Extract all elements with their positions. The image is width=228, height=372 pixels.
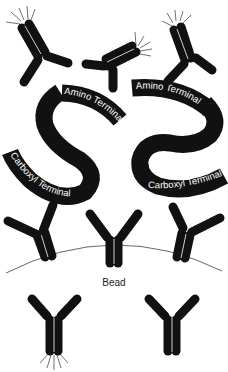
emission-rays-icon — [162, 10, 191, 26]
capture-antibody-right — [173, 207, 220, 258]
free-unlabeled-antibody — [149, 299, 195, 352]
capture-antibody-left — [8, 205, 53, 257]
amino-terminal-label-left: Amino Terminal — [64, 85, 127, 125]
labeled-antibody-top-left — [6, 6, 68, 82]
bead-label: Bead — [102, 277, 125, 288]
antigen-ribbon-right: Amino Terminal Carboxyl Terminal — [132, 80, 224, 191]
capture-antibody-center — [90, 214, 138, 264]
emission-rays-icon — [40, 354, 68, 370]
free-labeled-antibody — [32, 299, 77, 370]
diagram-canvas: Amino Terminal Carboxyl Terminal Amino T… — [0, 0, 228, 372]
labeled-antibody-top-right — [162, 10, 212, 81]
antigen-ribbon-left: Amino Terminal Carboxyl Terminal — [8, 85, 127, 198]
